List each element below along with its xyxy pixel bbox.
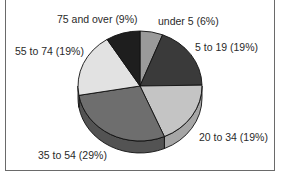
label-35-to-54: 35 to 54 (29%)	[38, 150, 107, 161]
label-20-to-34: 20 to 34 (19%)	[199, 132, 268, 143]
label-under-5: under 5 (6%)	[158, 16, 219, 27]
label-75-and-over: 75 and over (9%)	[57, 14, 138, 25]
label-5-to-19: 5 to 19 (19%)	[195, 42, 258, 53]
label-55-to-74: 55 to 74 (19%)	[15, 46, 84, 57]
